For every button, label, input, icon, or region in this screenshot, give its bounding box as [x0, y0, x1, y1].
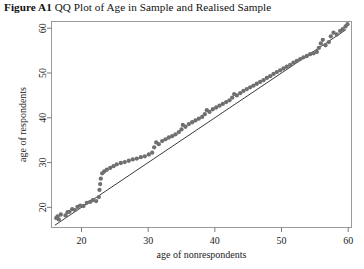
scatter-point — [139, 155, 143, 159]
figure-number: Figure A1 — [4, 1, 52, 13]
scatter-point — [323, 43, 327, 47]
x-tick-label: 60 — [343, 235, 353, 246]
x-axis-tick-labels: 2030405060 — [77, 235, 354, 246]
scatter-point — [315, 50, 319, 54]
scatter-point — [321, 38, 325, 42]
figure-caption: Figure A1 QQ Plot of Age in Sample and R… — [4, 1, 271, 14]
scatter-point — [94, 199, 98, 203]
figure-caption-text: QQ Plot of Age in Sample and Realised Sa… — [55, 1, 272, 13]
scatter-point — [98, 182, 102, 186]
y-tick-label: 60 — [37, 23, 48, 33]
x-axis-ticks — [82, 228, 349, 233]
scatter-point — [179, 127, 183, 131]
y-tick-label: 40 — [37, 113, 48, 123]
scatter-point — [97, 195, 101, 199]
scatter-point — [345, 22, 349, 26]
y-axis-tick-labels: 2030405060 — [37, 23, 48, 212]
scatter-point — [327, 40, 331, 44]
scatter-point — [115, 162, 119, 166]
x-tick-label: 50 — [277, 235, 287, 246]
scatter-point — [127, 159, 131, 163]
scatter-point — [329, 34, 333, 38]
scatter-point — [59, 212, 63, 216]
y-tick-label: 30 — [37, 158, 48, 168]
qq-plot-canvas: 2030405060 2030405060 age of nonresponde… — [0, 14, 364, 269]
plot-frame — [52, 22, 352, 228]
scatter-point — [99, 177, 103, 181]
scatter-point — [152, 145, 156, 149]
scatter-point — [207, 110, 211, 114]
scatter-point — [183, 125, 187, 129]
scatter-point — [135, 156, 139, 160]
scatter-point — [335, 32, 339, 36]
scatter-point — [119, 161, 123, 165]
x-tick-label: 20 — [77, 235, 87, 246]
y-tick-label: 20 — [37, 202, 48, 212]
scatter-point — [157, 142, 161, 146]
scatter-point — [123, 160, 127, 164]
scatter-point — [97, 188, 101, 192]
x-tick-label: 40 — [210, 235, 220, 246]
figure-container: Figure A1 QQ Plot of Age in Sample and R… — [0, 0, 364, 269]
x-axis-label: age of nonrespondents — [157, 249, 247, 260]
scatter-point — [203, 112, 207, 116]
scatter-point — [57, 217, 61, 221]
x-tick-label: 30 — [143, 235, 153, 246]
scatter-point — [317, 46, 321, 50]
scatter-point — [131, 157, 135, 161]
scatter-point — [81, 204, 85, 208]
y-tick-label: 50 — [37, 68, 48, 78]
scatter-point — [150, 151, 154, 155]
y-axis-label: age of respondents — [17, 87, 28, 162]
qq-plot: 2030405060 2030405060 age of nonresponde… — [0, 14, 364, 269]
scatter-point — [143, 154, 147, 158]
